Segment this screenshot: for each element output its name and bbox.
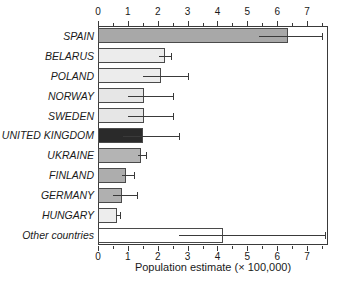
minor-tick <box>232 246 233 249</box>
category-label: Other countries <box>22 230 94 241</box>
category-label: GERMANY <box>41 190 94 201</box>
error-bar-line <box>122 175 134 176</box>
error-bar-cap <box>325 232 326 239</box>
error-bar-cap <box>173 93 174 100</box>
error-bar-cap <box>134 172 135 179</box>
error-bar-line <box>123 136 178 137</box>
minor-tick <box>203 246 204 249</box>
x-tick-label: 5 <box>237 7 257 17</box>
category-label: SPAIN <box>63 31 94 42</box>
error-bar-cap <box>137 192 138 199</box>
population-estimate-bar-chart: 01234567 01234567 SPAINBELARUSPOLANDNORW… <box>0 0 341 282</box>
chart-row: HUNGARY <box>98 205 328 225</box>
x-tick-label: 6 <box>267 7 287 17</box>
x-tick-label: 3 <box>178 7 198 17</box>
error-bar-line <box>179 235 325 236</box>
category-label: NORWAY <box>48 91 94 102</box>
bar <box>98 148 141 163</box>
x-tick-label: 2 <box>148 7 168 17</box>
error-bar-cap <box>120 212 121 219</box>
category-label: SWEDEN <box>48 111 94 122</box>
error-bar-line <box>159 56 171 57</box>
category-label: UKRAINE <box>47 150 94 161</box>
category-label: BELARUS <box>45 51 94 62</box>
error-bar-line <box>259 36 322 37</box>
category-label: UNITED KINGDOM <box>2 130 94 141</box>
bottom-x-axis: 01234567 <box>98 245 328 246</box>
chart-row: UKRAINE <box>98 145 328 165</box>
minor-tick <box>113 246 114 249</box>
error-bar-line <box>138 155 145 156</box>
category-label: FINLAND <box>49 170 94 181</box>
error-bar-cap <box>322 33 323 40</box>
minor-tick <box>322 246 323 249</box>
error-bar-cap <box>171 53 172 60</box>
minor-tick <box>292 246 293 249</box>
error-bar-line <box>128 96 173 97</box>
category-label: HUNGARY <box>42 210 94 221</box>
error-bar-cap <box>146 152 147 159</box>
error-bar-line <box>128 116 173 117</box>
x-tick-label: 1 <box>118 7 138 17</box>
x-tick-label: 0 <box>88 7 108 17</box>
x-tick-label: 4 <box>207 7 227 17</box>
x-tick-label: 7 <box>297 7 317 17</box>
chart-row: POLAND <box>98 66 328 86</box>
minor-tick <box>143 246 144 249</box>
error-bar-line <box>143 76 188 77</box>
error-bar-cap <box>173 113 174 120</box>
category-label: POLAND <box>51 71 94 82</box>
x-axis-title: Population estimate (× 100,000) <box>98 261 328 273</box>
bar <box>98 48 165 63</box>
chart-row: BELARUS <box>98 46 328 66</box>
error-bar-line <box>113 195 137 196</box>
minor-tick <box>173 246 174 249</box>
error-bar-cap <box>179 133 180 140</box>
bar <box>98 208 117 223</box>
error-bar-cap <box>188 73 189 80</box>
minor-tick <box>262 246 263 249</box>
